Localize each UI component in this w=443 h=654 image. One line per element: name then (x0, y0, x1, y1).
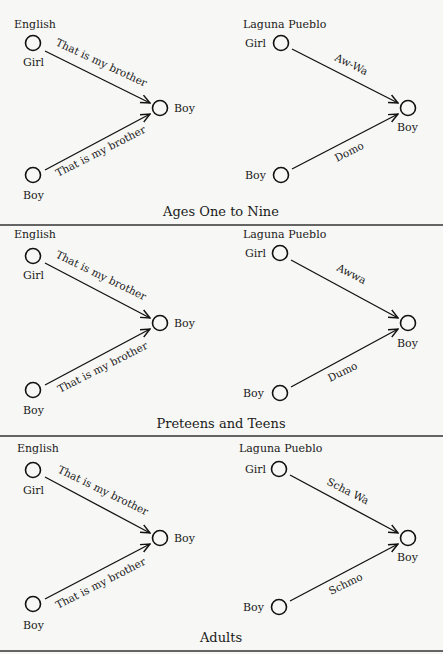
boy-edge-label: Dumo (326, 359, 360, 384)
boy-edge-label: Domo (332, 139, 365, 164)
panel-preteens-and-teens: English Girl Boy Boy That is my brother … (0, 228, 443, 436)
boy-target-label: Boy (397, 337, 419, 350)
boy-target-node (153, 531, 168, 546)
girl-label: Girl (245, 463, 267, 476)
girl-node (273, 246, 288, 261)
boy-source-node (26, 597, 41, 612)
girl-node (272, 462, 287, 477)
boy-source-label: Boy (243, 601, 265, 614)
panel-title: Ages One to Nine (162, 204, 279, 219)
boy-target-node (401, 101, 416, 116)
english-diagram: English Girl Boy Boy That is my brother … (17, 442, 196, 632)
boy-to-boy-arrow (45, 114, 150, 170)
boy-source-label: Boy (23, 189, 45, 202)
boy-edge-label: That is my brother (55, 339, 150, 395)
boy-edge-label: That is my brother (53, 123, 148, 179)
boy-edge-label: Schmo (327, 570, 365, 597)
laguna-pueblo-diagram: Laguna Pueblo Girl Boy Boy Aw-Wa Domo (243, 18, 419, 183)
boy-source-label: Boy (23, 619, 45, 632)
boy-target-node (401, 316, 416, 331)
boy-source-node (26, 168, 41, 183)
boy-source-label: Boy (245, 169, 267, 182)
panel-ages-one-to-nine: English Girl Boy Boy That is my brother … (0, 18, 443, 225)
boy-source-node (272, 600, 287, 615)
english-heading: English (17, 442, 59, 455)
boy-target-label: Boy (174, 317, 196, 330)
girl-label: Girl (23, 56, 45, 69)
kinship-term-diagram: English Girl Boy Boy That is my brother … (0, 0, 443, 654)
girl-edge-label: Scha Wa (325, 475, 371, 506)
boy-source-node (273, 386, 288, 401)
boy-target-node (153, 316, 168, 331)
girl-label: Girl (23, 484, 45, 497)
english-heading: English (14, 228, 56, 241)
boy-source-label: Boy (23, 404, 45, 417)
boy-to-boy-arrow (291, 329, 398, 387)
laguna-pueblo-diagram: Laguna Pueblo Girl Boy Boy Awwa Dumo (243, 228, 419, 401)
girl-node (26, 36, 41, 51)
girl-node (274, 36, 289, 51)
boy-target-node (401, 531, 416, 546)
english-diagram: English Girl Boy Boy That is my brother … (14, 18, 196, 202)
english-diagram: English Girl Boy Boy That is my brother … (14, 228, 196, 417)
boy-to-boy-arrow (290, 544, 398, 601)
girl-label: Girl (23, 269, 45, 282)
panel-title: Adults (199, 630, 242, 645)
girl-node (26, 249, 41, 264)
girl-node (26, 463, 41, 478)
girl-label: Girl (245, 247, 267, 260)
laguna-heading: Laguna Pueblo (243, 18, 327, 31)
boy-target-label: Boy (397, 121, 419, 134)
girl-label: Girl (245, 37, 267, 50)
panel-title: Preteens and Teens (156, 416, 285, 431)
laguna-pueblo-diagram: Laguna Pueblo Girl Boy Boy Scha Wa Schmo (239, 442, 419, 615)
boy-source-label: Boy (243, 387, 265, 400)
laguna-heading: Laguna Pueblo (239, 442, 323, 455)
laguna-heading: Laguna Pueblo (243, 228, 327, 241)
boy-target-node (153, 101, 168, 116)
boy-edge-label: That is my brother (53, 555, 148, 611)
boy-source-node (274, 168, 289, 183)
boy-target-label: Boy (174, 532, 196, 545)
girl-edge-label: Awwa (334, 261, 368, 286)
boy-target-label: Boy (174, 102, 196, 115)
boy-source-node (26, 383, 41, 398)
english-heading: English (14, 18, 56, 31)
panel-adults: English Girl Boy Boy That is my brother … (0, 442, 443, 651)
boy-to-boy-arrow (292, 114, 398, 169)
boy-target-label: Boy (397, 551, 419, 564)
girl-edge-label: Aw-Wa (332, 51, 370, 78)
